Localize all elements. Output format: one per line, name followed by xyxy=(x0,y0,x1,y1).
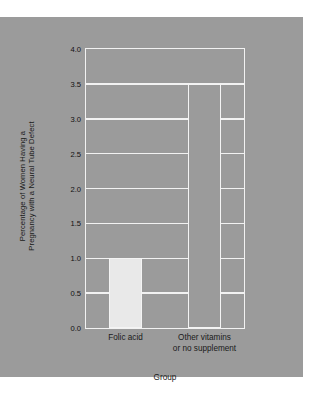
y-axis-label-line2: Pregnancy with a Neural Tube Defect xyxy=(28,121,37,250)
y-axis-tick-label: 0.0 xyxy=(70,324,81,333)
x-axis-tick-label-line1: Folic acid xyxy=(108,333,143,342)
bar[interactable] xyxy=(109,258,142,328)
bar[interactable] xyxy=(188,84,221,328)
y-axis-tick-label: 2.0 xyxy=(70,184,81,193)
x-axis-tick-label: Other vitaminsor no supplement xyxy=(173,333,236,354)
chart-figure: Percentage of Women Having a Pregnancy w… xyxy=(0,0,321,393)
y-axis-tick-label: 4.0 xyxy=(70,45,81,54)
y-axis-label: Percentage of Women Having a Pregnancy w… xyxy=(11,76,45,296)
x-axis-tick-label: Folic acid xyxy=(108,333,143,344)
y-axis-tick-label: 3.0 xyxy=(70,114,81,123)
chart-panel: Percentage of Women Having a Pregnancy w… xyxy=(0,17,303,377)
x-axis-tick-label-line2: or no supplement xyxy=(173,344,236,353)
y-axis-tick-label: 2.5 xyxy=(70,149,81,158)
y-axis-tick-label: 1.5 xyxy=(70,219,81,228)
y-axis-tick-label: 3.5 xyxy=(70,79,81,88)
plot-area: 0.00.51.01.52.02.53.03.54.0Folic acidOth… xyxy=(85,48,245,329)
x-axis-label: Group xyxy=(85,373,245,382)
x-axis-tick-label-line1: Other vitamins xyxy=(178,333,231,342)
y-axis-tick-label: 0.5 xyxy=(70,289,81,298)
y-axis-tick-label: 1.0 xyxy=(70,254,81,263)
